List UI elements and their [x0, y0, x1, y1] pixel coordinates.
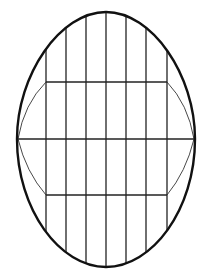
grid-lines	[0, 0, 209, 280]
egg-diagram	[0, 0, 209, 280]
inner-curve-left-upper	[18, 82, 46, 139]
inner-curve-right-lower	[167, 139, 194, 195]
inner-curve-left-lower	[18, 139, 46, 195]
inner-curve-right-upper	[167, 82, 194, 139]
egg-diagram-svg	[0, 0, 209, 280]
